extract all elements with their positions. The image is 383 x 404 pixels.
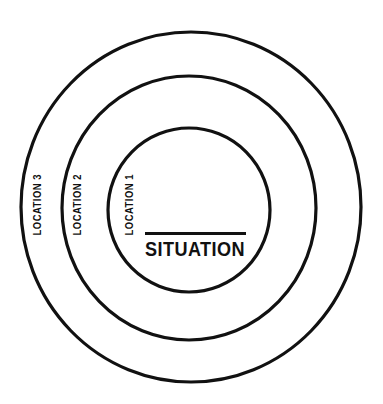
ring-location-2 xyxy=(62,76,316,340)
situation-underline-rule xyxy=(145,232,246,235)
rings-canvas xyxy=(0,0,383,404)
situation-label: SITUATION xyxy=(135,238,255,260)
concentric-location-diagram: LOCATION 3 LOCATION 2 LOCATION 1 SITUATI… xyxy=(0,0,383,404)
ring-label-location-2: LOCATION 2 xyxy=(72,151,84,258)
ring-label-location-3: LOCATION 3 xyxy=(32,151,44,258)
situation-center-block: SITUATION xyxy=(125,232,265,260)
